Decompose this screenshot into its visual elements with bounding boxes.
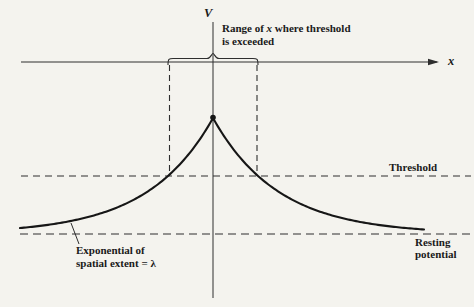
threshold-label: Threshold [389, 161, 437, 174]
peak-dot [210, 115, 216, 121]
x-axis-arrowhead [428, 59, 439, 65]
exponential-annotation: Exponential of spatial extent = λ [76, 244, 156, 270]
exponential-annotation-line1: Exponential of [76, 244, 156, 257]
range-annotation: Range of x where threshold is exceeded [222, 22, 351, 48]
x-axis-label: x [448, 54, 454, 69]
figure-canvas: V x Range of x where threshold is exceed… [0, 0, 474, 307]
resting-potential-label: Resting potential [415, 236, 457, 260]
range-annotation-line1: Range of x where threshold [222, 22, 351, 35]
resting-label-line2: potential [415, 248, 457, 260]
exponential-annotation-line2: spatial extent = λ [76, 257, 156, 270]
v-axis-label: V [204, 6, 212, 21]
potential-curve [20, 120, 424, 230]
resting-label-line1: Resting [415, 236, 457, 248]
range-annotation-line2: is exceeded [222, 35, 351, 48]
